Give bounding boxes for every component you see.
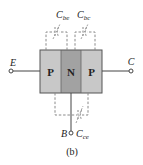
transistor-body: P N P bbox=[40, 50, 102, 93]
emitter-label: E bbox=[9, 57, 16, 68]
base-terminal-node-icon bbox=[69, 131, 73, 135]
region-label-p1: P bbox=[47, 66, 54, 78]
region-label-p2: P bbox=[88, 66, 95, 78]
collector-label: C bbox=[128, 56, 135, 67]
cce-label: Cce bbox=[76, 128, 89, 141]
region-label-n: N bbox=[67, 66, 75, 78]
emitter-terminal-node-icon bbox=[9, 69, 13, 73]
variable-arrow-icon bbox=[76, 106, 83, 123]
collector-terminal-node-icon bbox=[129, 69, 133, 73]
cbc-label: Cbc bbox=[77, 9, 91, 22]
cbc-capacitor: Cbc bbox=[75, 9, 95, 50]
variable-arrow-icon bbox=[81, 24, 88, 39]
cbe-capacitor: Cbe bbox=[46, 9, 69, 50]
cbe-label: Cbe bbox=[56, 9, 69, 22]
figure-caption: (b) bbox=[66, 146, 78, 158]
emitter-terminal: E bbox=[9, 57, 40, 73]
base-terminal: B bbox=[61, 93, 73, 139]
collector-terminal: C bbox=[102, 56, 135, 73]
pnp-transistor-capacitance-diagram: P N P E C B Cbe Cbc bbox=[0, 0, 143, 165]
base-label: B bbox=[61, 128, 67, 139]
